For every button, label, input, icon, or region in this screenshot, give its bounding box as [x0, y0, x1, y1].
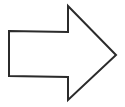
diagram-canvas: right	[0, 0, 125, 107]
right-arrow-icon	[0, 0, 125, 107]
arrow-shape	[9, 6, 116, 100]
